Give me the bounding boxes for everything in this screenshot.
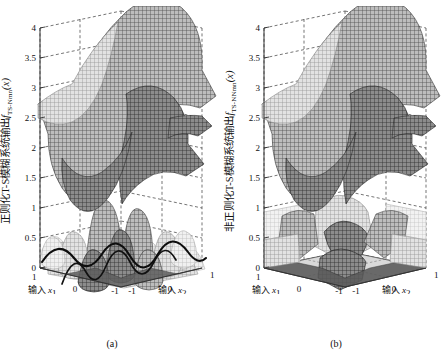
panel-b-caption: (b)	[224, 338, 448, 349]
panel-a-ztick-0: 4	[32, 23, 37, 33]
panel-b-z-label-arg: (x)	[224, 70, 235, 82]
panel-b-ztick-1: 3.5	[249, 53, 261, 63]
panel-a-ztick-3: 2.5	[25, 113, 37, 123]
panel-b-ytick-2: 1	[434, 270, 439, 280]
panel-b-xtick-2: -1	[335, 286, 343, 294]
panel-a-z-tick-labels: 4 3.5 3 2.5 2 1.5 1 0.5 0	[25, 23, 37, 273]
panel-a-z-label-cjk: 正则化T-S模糊系统输出	[0, 118, 11, 224]
panel-a-ztick-1: 3.5	[25, 53, 37, 63]
panel-b-ztick-4: 2	[256, 143, 261, 153]
panel-a-z-label-arg: (x)	[0, 78, 11, 90]
panel-a-x-axis-sub: 1	[52, 288, 57, 295]
panel-b-surface-plot: 4 3.5 3 2.5 2 1.5 1 0.5 0 1 0	[242, 6, 448, 294]
panel-b-ztick-6: 1	[256, 203, 261, 213]
panel-a-caption: (a)	[0, 338, 224, 349]
panel-a-x-axis-cjk: 输入	[28, 284, 46, 294]
panel-a-z-axis-label: 正则化T-S模糊系统输出fTS-Nmn(x)	[0, 6, 14, 296]
panel-b: 非正则化T-S模糊系统输出fTS-NNmn(x)	[224, 0, 448, 355]
panel-b-z-tick-labels: 4 3.5 3 2.5 2 1.5 1 0.5 0	[249, 23, 261, 273]
panel-a-xtick-1: 0	[73, 284, 78, 294]
panel-b-membership-surfaces	[264, 195, 426, 290]
panel-b-xtick-0: 1	[256, 272, 261, 282]
panel-a-ztick-6: 1	[32, 203, 37, 213]
panel-b-z-label-cjk: 非正则化T-S模糊系统输出	[224, 116, 235, 232]
panel-a-y-axis-cjk: 输入	[158, 284, 176, 294]
panel-b-plot-area: 4 3.5 3 2.5 2 1.5 1 0.5 0 1 0	[242, 6, 448, 294]
panel-b-z-label-fn: f	[224, 113, 235, 116]
panel-b-output-surface	[262, 6, 440, 212]
panel-a-ztick-7: 0.5	[25, 233, 37, 243]
panel-b-y-axis-label: 输入x2	[382, 284, 411, 294]
panel-a-ztick-4: 2	[32, 143, 37, 153]
panel-a-xtick-2: -1	[111, 286, 119, 294]
panel-b-ztick-3: 2.5	[249, 113, 261, 123]
panel-b-ztick-0: 4	[256, 23, 261, 33]
panel-a-ztick-2: 3	[32, 83, 37, 93]
figure-root: 正则化T-S模糊系统输出fTS-Nmn(x)	[0, 0, 448, 355]
panel-a-ytick-2: 1	[210, 270, 215, 280]
panel-a-plot-area: 4 3.5 3 2.5 2 1.5 1 0.5 0 1	[18, 6, 224, 294]
panel-a-xtick-0: 1	[32, 272, 37, 282]
panel-a-ytick-0: -1	[128, 286, 136, 294]
panel-b-x-axis-sub: 1	[276, 288, 281, 295]
panel-a-z-label-sub: TS-Nmn	[6, 90, 14, 115]
panel-b-x-axis-label: 输入x1	[252, 284, 281, 294]
panel-b-y-axis-sub: 2	[406, 288, 411, 295]
panel-b-ztick-7: 0.5	[249, 233, 261, 243]
panel-a-ztick-5: 1.5	[25, 173, 37, 183]
panel-b-ytick-0: -1	[352, 286, 360, 294]
panel-a-z-label-fn: f	[0, 115, 11, 118]
panel-b-z-label-sub: TS-NNmn	[230, 82, 238, 112]
panel-a-surface-plot: 4 3.5 3 2.5 2 1.5 1 0.5 0 1	[18, 6, 224, 294]
panel-b-z-axis-label: 非正则化T-S模糊系统输出fTS-NNmn(x)	[222, 6, 238, 296]
panel-b-ztick-5: 1.5	[249, 173, 261, 183]
panel-b-xtick-1: 0	[297, 284, 302, 294]
panel-b-ztick-2: 3	[256, 83, 261, 93]
panel-a: 正则化T-S模糊系统输出fTS-Nmn(x)	[0, 0, 224, 355]
panel-a-x-axis-label: 输入x1	[28, 284, 57, 294]
panel-a-y-axis-sub: 2	[182, 288, 187, 295]
panel-b-y-axis-cjk: 输入	[382, 284, 400, 294]
panel-b-x-axis-cjk: 输入	[252, 284, 270, 294]
panel-a-y-axis-label: 输入x2	[158, 284, 187, 294]
panel-a-output-surface	[38, 6, 216, 212]
panel-a-z-ticks	[40, 27, 45, 268]
